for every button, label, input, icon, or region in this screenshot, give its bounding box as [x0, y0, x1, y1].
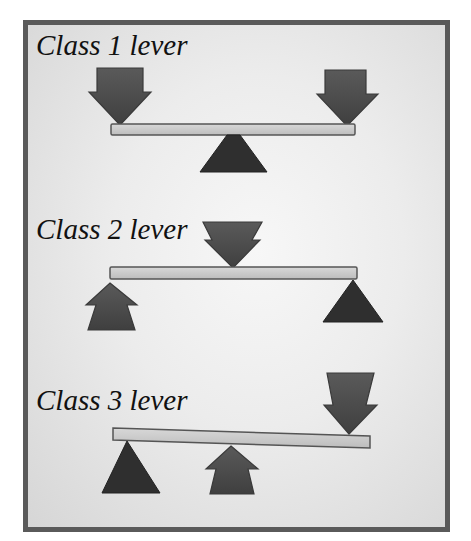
class-1-lever — [89, 68, 378, 172]
fulcrum-triangle-icon — [102, 441, 160, 493]
class-2-label: Class 2 lever — [36, 215, 187, 244]
down-arrow-icon — [324, 373, 377, 434]
up-arrow-icon — [206, 446, 258, 494]
down-arrow-icon — [317, 70, 378, 126]
up-arrow-icon — [86, 283, 137, 330]
lever-beam — [111, 124, 355, 135]
lever-beam — [113, 428, 370, 448]
class-3-label: Class 3 lever — [36, 386, 187, 415]
class-1-label: Class 1 lever — [36, 31, 187, 60]
lever-beam — [110, 267, 357, 279]
fulcrum-triangle-icon — [200, 135, 267, 172]
fulcrum-triangle-icon — [323, 280, 383, 322]
down-arrow-icon — [203, 222, 262, 268]
down-arrow-icon — [89, 68, 151, 125]
lever-diagram — [0, 0, 471, 541]
